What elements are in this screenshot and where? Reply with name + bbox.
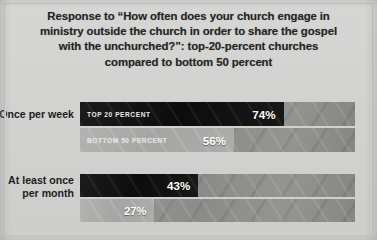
bar-top-20-percent-at-least-once-per-month: 43% bbox=[80, 174, 198, 197]
bar-bottom-50-percent-at-least-once-per-month: 27% bbox=[80, 199, 154, 222]
bar-value-43: 43% bbox=[167, 179, 190, 192]
bar-chart-plot-area: Once per week TOP 20 PERCENT 74% BOTTOM … bbox=[0, 0, 377, 240]
bar-track: 43% bbox=[80, 174, 355, 197]
bar-inline-label-top-20-percent: TOP 20 PERCENT bbox=[87, 111, 151, 118]
bar-group-once-per-week: TOP 20 PERCENT 74% BOTTOM 50 PERCENT 56% bbox=[80, 102, 355, 152]
bar-value-56: 56% bbox=[203, 134, 226, 147]
bar-group-at-least-once-per-month: 43% 27% bbox=[80, 174, 355, 222]
chart-figure: Response to “How often does your church … bbox=[0, 0, 377, 240]
bar-track: TOP 20 PERCENT 74% bbox=[80, 102, 355, 126]
bar-inline-label-bottom-50-percent: BOTTOM 50 PERCENT bbox=[87, 137, 167, 144]
bar-value-74: 74% bbox=[252, 108, 275, 121]
bar-bottom-50-percent-once-per-week: BOTTOM 50 PERCENT 56% bbox=[80, 128, 234, 152]
bar-track: BOTTOM 50 PERCENT 56% bbox=[80, 128, 355, 152]
bar-track: 27% bbox=[80, 199, 355, 222]
category-label-at-least-once-per-month: At least once per month bbox=[0, 174, 74, 199]
bar-top-20-percent-once-per-week: TOP 20 PERCENT 74% bbox=[80, 102, 284, 126]
category-label-once-per-week: Once per week bbox=[0, 108, 74, 121]
bar-value-27: 27% bbox=[124, 205, 146, 217]
